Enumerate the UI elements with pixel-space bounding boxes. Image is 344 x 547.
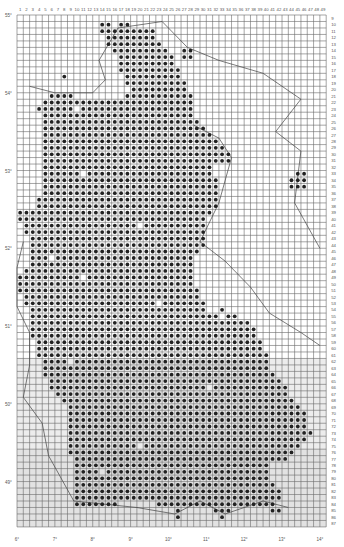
occurrence-dot xyxy=(239,476,243,480)
occurrence-dot xyxy=(252,431,256,435)
occurrence-dot xyxy=(100,418,104,422)
occurrence-dot xyxy=(144,152,148,156)
occurrence-dot xyxy=(176,94,180,98)
occurrence-dot xyxy=(50,152,54,156)
occurrence-dot xyxy=(151,347,155,351)
occurrence-dot xyxy=(94,470,98,474)
occurrence-dot xyxy=(62,373,66,377)
occurrence-dot xyxy=(37,301,41,305)
occurrence-dot xyxy=(50,126,54,130)
occurrence-dot xyxy=(277,444,281,448)
occurrence-dot xyxy=(176,243,180,247)
occurrence-dot xyxy=(208,314,212,318)
occurrence-dot xyxy=(208,178,212,182)
occurrence-dot xyxy=(226,373,230,377)
occurrence-dot xyxy=(176,185,180,189)
occurrence-dot xyxy=(264,353,268,357)
occurrence-dot xyxy=(138,36,142,40)
occurrence-dot xyxy=(176,88,180,92)
occurrence-dot xyxy=(75,438,79,442)
occurrence-dot xyxy=(88,321,92,325)
occurrence-dot xyxy=(31,295,35,299)
occurrence-dot xyxy=(189,269,193,273)
occurrence-dot xyxy=(100,314,104,318)
occurrence-dot xyxy=(88,353,92,357)
occurrence-dot xyxy=(126,114,130,118)
occurrence-dot xyxy=(195,431,199,435)
occurrence-dot xyxy=(226,399,230,403)
occurrence-dot xyxy=(132,451,136,455)
occurrence-dot xyxy=(264,496,268,500)
occurrence-dot xyxy=(119,107,123,111)
occurrence-dot xyxy=(163,360,167,364)
occurrence-dot xyxy=(113,165,117,169)
occurrence-dot xyxy=(195,185,199,189)
occurrence-dot xyxy=(226,502,230,506)
occurrence-dot xyxy=(157,353,161,357)
occurrence-dot xyxy=(94,126,98,130)
occurrence-dot xyxy=(157,101,161,105)
occurrence-dot xyxy=(226,340,230,344)
occurrence-dot xyxy=(126,340,130,344)
occurrence-dot xyxy=(31,224,35,228)
occurrence-dot xyxy=(252,489,256,493)
occurrence-dot xyxy=(176,425,180,429)
occurrence-dot xyxy=(119,282,123,286)
occurrence-dot xyxy=(195,146,199,150)
occurrence-dot xyxy=(182,386,186,390)
occurrence-dot xyxy=(144,198,148,202)
occurrence-dot xyxy=(100,23,104,27)
occurrence-dot xyxy=(245,366,249,370)
occurrence-dot xyxy=(43,282,47,286)
occurrence-dot xyxy=(245,463,249,467)
occurrence-dot xyxy=(107,502,111,506)
occurrence-dot xyxy=(88,250,92,254)
occurrence-dot xyxy=(94,502,98,506)
occurrence-dot xyxy=(157,347,161,351)
occurrence-dot xyxy=(56,392,60,396)
row-label: 16 xyxy=(331,61,336,66)
occurrence-dot xyxy=(119,418,123,422)
occurrence-dot xyxy=(144,483,148,487)
occurrence-dot xyxy=(163,438,167,442)
occurrence-dot xyxy=(62,295,66,299)
occurrence-dot xyxy=(132,133,136,137)
occurrence-dot xyxy=(132,289,136,293)
occurrence-dot xyxy=(132,191,136,195)
occurrence-dot xyxy=(81,250,85,254)
occurrence-dot xyxy=(176,340,180,344)
occurrence-dot xyxy=(201,334,205,338)
occurrence-dot xyxy=(144,94,148,98)
occurrence-dot xyxy=(100,502,104,506)
occurrence-dot xyxy=(264,412,268,416)
occurrence-dot xyxy=(107,237,111,241)
occurrence-dot xyxy=(69,340,73,344)
occurrence-dot xyxy=(100,211,104,215)
occurrence-dot xyxy=(264,425,268,429)
occurrence-dot xyxy=(176,470,180,474)
occurrence-dot xyxy=(157,438,161,442)
occurrence-dot xyxy=(138,94,142,98)
occurrence-dot xyxy=(176,327,180,331)
occurrence-dot xyxy=(126,230,130,234)
occurrence-dot xyxy=(107,256,111,260)
occurrence-dot xyxy=(56,94,60,98)
occurrence-dot xyxy=(88,418,92,422)
occurrence-dot xyxy=(208,399,212,403)
occurrence-dot xyxy=(50,321,54,325)
occurrence-dot xyxy=(119,159,123,163)
occurrence-dot xyxy=(144,36,148,40)
occurrence-dot xyxy=(132,152,136,156)
occurrence-dot xyxy=(144,373,148,377)
occurrence-dot xyxy=(182,217,186,221)
row-label: 83 xyxy=(331,495,336,500)
occurrence-dot xyxy=(195,321,199,325)
occurrence-dot xyxy=(239,379,243,383)
latitude-label: 49° xyxy=(5,480,12,485)
occurrence-dot xyxy=(69,347,73,351)
occurrence-dot xyxy=(163,295,167,299)
occurrence-dot xyxy=(126,289,130,293)
occurrence-dot xyxy=(119,101,123,105)
occurrence-dot xyxy=(94,263,98,267)
occurrence-dot xyxy=(69,126,73,130)
